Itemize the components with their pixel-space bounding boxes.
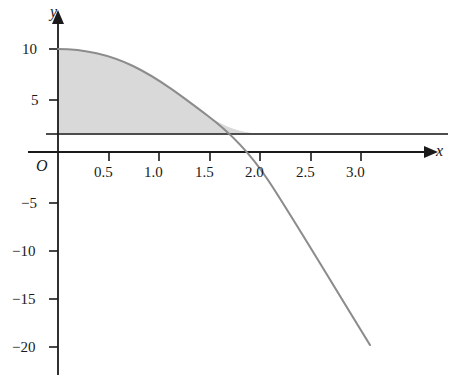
origin-label: O: [36, 158, 48, 174]
y-axis-label: y: [50, 4, 57, 20]
x-tick-label-2-5: 2.5: [296, 165, 315, 180]
y-tick-label-minus-20: −20: [12, 340, 35, 355]
x-axis-ticks: [109, 152, 361, 161]
y-axis-ticks: [49, 49, 58, 347]
y-tick-label-minus-10: −10: [12, 244, 35, 259]
x-tick-label-0-5: 0.5: [94, 165, 113, 180]
y-tick-label-minus-15: −15: [12, 292, 35, 307]
x-tick-label-1-5: 1.5: [195, 165, 214, 180]
x-axis-label: x: [436, 143, 443, 159]
x-tick-label-3-0: 3.0: [346, 165, 365, 180]
y-tick-label-minus-5: −5: [21, 196, 37, 211]
shaded-area-region: [58, 49, 263, 134]
x-tick-label-2-0: 2.0: [245, 165, 264, 180]
y-tick-label-5: 5: [31, 93, 39, 108]
x-tick-label-1-0: 1.0: [144, 165, 163, 180]
y-tick-label-10: 10: [22, 42, 37, 57]
plot-canvas: [0, 0, 454, 385]
parabola-shaded-area-figure: y x O 10 5 −5 −10 −15 −20 0.5 1.0 1.5 2.…: [0, 0, 454, 385]
